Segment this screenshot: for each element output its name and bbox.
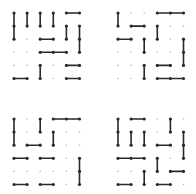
connected-dot [143, 117, 146, 120]
grid-dot [13, 171, 15, 173]
connected-dot [169, 144, 172, 147]
connected-dot [39, 157, 42, 160]
connected-dot [78, 38, 81, 41]
connected-dot [65, 25, 68, 28]
connected-dot [65, 51, 68, 54]
connected-dot [130, 144, 133, 147]
connected-dot [52, 51, 55, 54]
grid-dot [117, 65, 119, 67]
grid-dot [183, 25, 185, 27]
connected-dot [116, 11, 119, 14]
grid-dot [66, 171, 68, 173]
connected-dot [182, 38, 185, 41]
connected-dot [182, 131, 185, 134]
connected-dot [143, 51, 146, 54]
connected-dot [182, 11, 185, 14]
grid-dot [183, 118, 185, 120]
connected-dot [52, 11, 55, 14]
connected-dot [116, 144, 119, 147]
grid-dot [117, 52, 119, 54]
grid-dot [117, 78, 119, 80]
connected-dot [78, 183, 81, 186]
connected-dot [182, 170, 185, 173]
connected-dot [78, 77, 81, 80]
connected-dot [52, 157, 55, 160]
connected-dot [182, 144, 185, 147]
puzzle-sheet [0, 0, 196, 194]
connected-dot [52, 25, 55, 28]
connected-dot [12, 144, 15, 147]
connected-dot [130, 183, 133, 186]
grid-dot [53, 78, 55, 80]
grid-dot [170, 158, 172, 160]
connected-dot [65, 117, 68, 120]
connected-dot [156, 77, 159, 80]
grid-dot [26, 38, 28, 40]
connected-dot [78, 64, 81, 67]
connected-dot [156, 25, 159, 28]
connected-dot [116, 131, 119, 134]
connected-dot [143, 144, 146, 147]
connected-dot [52, 183, 55, 186]
connected-dot [143, 170, 146, 173]
connected-dot [52, 131, 55, 134]
connected-dot [182, 64, 185, 67]
grid-dot [66, 158, 68, 160]
connected-dot [116, 183, 119, 186]
connected-dot [156, 38, 159, 41]
grid-dot [79, 144, 81, 146]
connected-dot [169, 170, 172, 173]
connected-dot [39, 117, 42, 120]
connected-dot [39, 131, 42, 134]
connected-dot [39, 11, 42, 14]
connected-dot [169, 117, 172, 120]
connected-dot [65, 38, 68, 41]
panel-top-left [12, 11, 81, 80]
connected-dot [26, 77, 29, 80]
connected-dot [130, 117, 133, 120]
connected-dot [12, 25, 15, 28]
connected-dot [116, 117, 119, 120]
connected-dot [52, 117, 55, 120]
grid-dot [170, 52, 172, 54]
connected-dot [169, 183, 172, 186]
connected-dot [12, 131, 15, 134]
connected-dot [26, 11, 29, 14]
dot-grid-canvas [0, 0, 196, 194]
grid-dot [130, 52, 132, 54]
connected-dot [143, 64, 146, 67]
connected-dot [169, 131, 172, 134]
connected-dot [65, 64, 68, 67]
connected-dot [12, 183, 15, 186]
connected-dot [156, 157, 159, 160]
connected-dot [78, 157, 81, 160]
grid-dot [157, 52, 159, 54]
connected-dot [26, 183, 29, 186]
grid-dot [130, 65, 132, 67]
connected-dot [156, 170, 159, 173]
grid-dot [170, 25, 172, 27]
grid-dot [13, 65, 15, 67]
connected-dot [78, 51, 81, 54]
grid-dot [26, 65, 28, 67]
grid-dot [170, 38, 172, 40]
connected-dot [39, 144, 42, 147]
connected-dot [78, 11, 81, 14]
connected-dot [182, 51, 185, 54]
connected-dot [12, 157, 15, 160]
grid-dot [26, 131, 28, 133]
connected-dot [130, 157, 133, 160]
connected-dot [39, 38, 42, 41]
connected-dot [143, 157, 146, 160]
connected-dot [143, 38, 146, 41]
grid-dot [13, 52, 15, 54]
grid-dot [26, 118, 28, 120]
connected-dot [156, 64, 159, 67]
connected-dot [26, 144, 29, 147]
grid-dot [79, 131, 81, 133]
connected-dot [78, 170, 81, 173]
grid-dot [157, 131, 159, 133]
panel-top-right [116, 11, 185, 80]
grid-dot [53, 65, 55, 67]
connected-dot [143, 131, 146, 134]
